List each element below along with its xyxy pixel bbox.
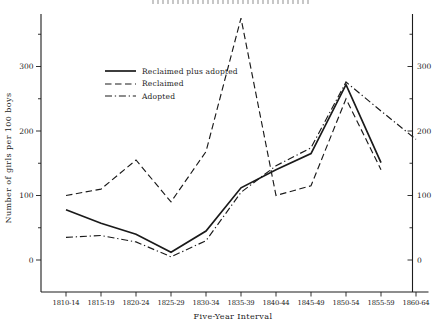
series-reclaimed-plus-adopted bbox=[66, 85, 381, 253]
y-tick-label-left: 100 bbox=[19, 191, 34, 200]
y-tick-label-right: 300 bbox=[417, 62, 432, 71]
y-tick-label-right: 200 bbox=[417, 127, 432, 136]
legend-label: Reclaimed bbox=[142, 79, 184, 88]
x-tick-label: 1835-39 bbox=[228, 299, 255, 307]
x-tick-label: 1845-49 bbox=[298, 299, 325, 307]
solid-line-swatch-icon bbox=[104, 66, 137, 76]
x-tick-label: 1830-34 bbox=[193, 299, 220, 307]
x-axis-title: Five-Year Interval bbox=[194, 312, 273, 321]
x-tick-label: 1840-44 bbox=[263, 299, 290, 307]
legend-item-reclaimed: Reclaimed bbox=[104, 78, 238, 91]
y-tick-label-right: 100 bbox=[417, 191, 432, 200]
x-tick-label: 1860-64 bbox=[403, 299, 430, 307]
x-tick-label: 1815-19 bbox=[88, 299, 115, 307]
legend-label: Adopted bbox=[142, 92, 175, 101]
dashed-line-swatch-icon bbox=[104, 79, 137, 89]
legend-label: Reclaimed plus adopted bbox=[142, 67, 238, 76]
y-tick-label-right: 0 bbox=[417, 256, 422, 265]
legend-item-adopted: Adopted bbox=[104, 90, 238, 103]
dashdot-line-swatch-icon bbox=[104, 91, 137, 101]
x-tick-label: 1810-14 bbox=[53, 299, 80, 307]
y-axis-title: Number of girls per 100 boys bbox=[4, 93, 13, 224]
legend-item-reclaimed-plus-adopted: Reclaimed plus adopted bbox=[104, 65, 238, 78]
x-tick-label: 1825-29 bbox=[158, 299, 185, 307]
y-tick-label-left: 200 bbox=[19, 127, 34, 136]
series-adopted bbox=[66, 82, 416, 257]
x-tick-label: 1855-59 bbox=[368, 299, 395, 307]
scanned-line-chart-figure: Number of girls per 100 boys Five-Year I… bbox=[0, 0, 436, 331]
x-tick-label: 1850-54 bbox=[333, 299, 360, 307]
chart-canvas: Number of girls per 100 boys Five-Year I… bbox=[0, 0, 436, 331]
x-tick-label: 1820-24 bbox=[123, 299, 150, 307]
chart-legend: Reclaimed plus adopted Reclaimed Adopted bbox=[104, 65, 238, 103]
y-tick-label-left: 300 bbox=[19, 62, 34, 71]
y-tick-label-left: 0 bbox=[29, 256, 34, 265]
